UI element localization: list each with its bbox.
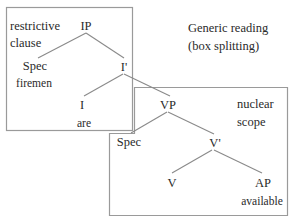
edge-vp-vbar bbox=[168, 112, 214, 134]
node-vp: VP bbox=[160, 98, 176, 112]
restrictive-clause-label-2: clause bbox=[10, 36, 41, 50]
nuclear-scope-label-1: nuclear bbox=[237, 97, 274, 111]
node-ip: IP bbox=[80, 19, 91, 33]
nuclear-scope-label-2: scope bbox=[237, 115, 265, 129]
edge-ibar-i bbox=[84, 74, 123, 96]
node-spec-vp: Spec bbox=[117, 135, 141, 149]
word-are: are bbox=[77, 116, 91, 130]
node-i: I bbox=[80, 98, 84, 112]
edge-ip-ibar bbox=[86, 33, 124, 58]
edge-ibar-vp bbox=[124, 74, 170, 96]
word-firemen: firemen bbox=[16, 76, 52, 90]
diagram-title: Generic reading bbox=[188, 21, 268, 35]
word-available: available bbox=[241, 194, 283, 208]
restrictive-clause-label-1: restrictive bbox=[10, 19, 60, 33]
edge-vp-spec bbox=[131, 112, 167, 133]
node-i-bar: I' bbox=[121, 60, 127, 74]
node-ap: AP bbox=[255, 176, 271, 190]
node-v-bar: V' bbox=[209, 136, 220, 150]
edge-ip-spec bbox=[38, 33, 86, 58]
node-spec-ip: Spec bbox=[23, 59, 47, 73]
diagram-subtitle: (box splitting) bbox=[188, 39, 259, 53]
edge-vbar-ap bbox=[214, 150, 262, 173]
edge-vbar-v bbox=[172, 150, 212, 173]
node-v: V bbox=[167, 176, 176, 190]
